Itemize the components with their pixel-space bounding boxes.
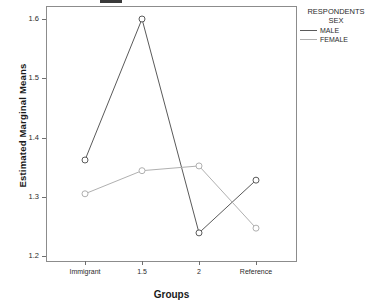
x-tick-label: 2 [197,268,201,275]
y-tick-label: 1.3 [17,192,39,201]
legend-title: RESPONDENTS SEX [300,7,372,25]
data-point-marker [253,177,259,183]
data-point-marker [139,168,145,174]
legend-item-male[interactable]: MALE [300,27,372,34]
plot-area [46,6,297,262]
legend-item-label: FEMALE [320,36,348,43]
legend-entries: MALEFEMALE [300,27,372,43]
legend: RESPONDENTS SEX MALEFEMALE [300,7,372,43]
x-tick-label: 1.5 [137,268,147,275]
legend-line-swatch [300,30,317,31]
x-tick-mark [142,261,143,265]
y-tick-label: 1.6 [17,14,39,23]
clipped-chart-title [100,0,122,3]
legend-line-swatch [300,39,317,40]
series-line-female [85,166,256,228]
legend-title-line2: SEX [328,16,343,25]
x-axis-title: Groups [46,289,297,300]
y-tick-label: 1.4 [17,133,39,142]
y-tick-label: 1.5 [17,73,39,82]
x-tick-label: Immigrant [69,268,100,275]
legend-title-line1: RESPONDENTS [307,7,364,16]
y-tick-mark [42,197,46,198]
legend-item-label: MALE [320,27,339,34]
y-tick-mark [42,138,46,139]
plot-series-layer [47,7,296,261]
legend-item-female[interactable]: FEMALE [300,36,372,43]
y-tick-mark [42,19,46,20]
data-point-marker [82,191,88,197]
data-point-marker [139,16,145,22]
x-tick-label: Reference [240,268,272,275]
data-point-marker [82,157,88,163]
y-tick-mark [42,78,46,79]
y-tick-mark [42,256,46,257]
data-point-marker [253,225,259,231]
estimated-marginal-means-chart: Estimated Marginal Means 1.21.31.41.51.6… [0,0,372,308]
x-tick-mark [199,261,200,265]
x-tick-mark [256,261,257,265]
x-tick-mark [85,261,86,265]
data-point-marker [196,230,202,236]
data-point-marker [196,163,202,169]
y-tick-label: 1.2 [17,251,39,260]
